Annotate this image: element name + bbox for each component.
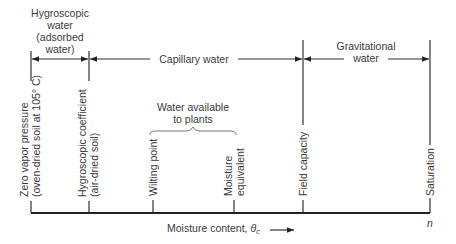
hygroscopic-coefficient-label: Hygroscopic coefficient (air-dried soil) <box>76 89 100 197</box>
svg-text:water): water) <box>44 43 74 55</box>
svg-text:water: water <box>46 19 73 31</box>
svg-text:Zero vapor pressure: Zero vapor pressure <box>18 102 30 197</box>
svg-text:to plants: to plants <box>173 113 213 125</box>
svg-text:Moisture: Moisture <box>222 156 234 196</box>
soil-moisture-diagram: Hygroscopic water (adsorbed water) Capil… <box>0 0 456 244</box>
field-capacity-label: Field capacity <box>297 131 309 196</box>
axis-end-label: n <box>427 217 433 229</box>
zero-vapor-label: Zero vapor pressure (oven-dried soil at … <box>18 75 42 197</box>
svg-text:water: water <box>352 52 379 64</box>
axis-label: Moisture content, θc <box>167 222 260 236</box>
available-water-brace <box>150 127 236 135</box>
svg-text:Hygroscopic: Hygroscopic <box>31 7 89 19</box>
svg-text:(adsorbed: (adsorbed <box>36 31 83 43</box>
saturation-label: Saturation <box>424 148 436 196</box>
svg-text:Hygroscopic coefficient: Hygroscopic coefficient <box>76 89 88 197</box>
capillary-water-label: Capillary water <box>159 53 229 65</box>
svg-text:(oven-dried soil at 105° C): (oven-dried soil at 105° C) <box>30 75 42 197</box>
svg-text:equivalent: equivalent <box>234 148 246 196</box>
hygroscopic-water-label: Hygroscopic water (adsorbed water) <box>31 7 89 55</box>
wilting-point-label: Wilting point <box>147 139 159 196</box>
svg-text:Gravitational: Gravitational <box>337 40 396 52</box>
gravitational-water-label: Gravitational water <box>337 40 396 64</box>
water-available-label: Water available to plants <box>157 101 229 125</box>
moisture-equivalent-label: Moisture equivalent <box>222 148 246 196</box>
svg-text:Water available: Water available <box>157 101 229 113</box>
svg-text:(air-dried soil): (air-dried soil) <box>88 133 100 197</box>
